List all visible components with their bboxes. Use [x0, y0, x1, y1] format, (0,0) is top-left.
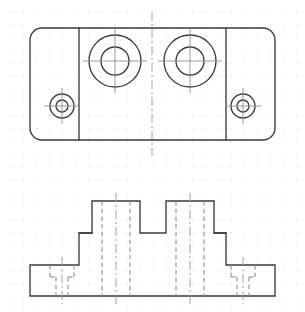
- drawing-svg: [0, 0, 305, 312]
- front-view-group: [30, 193, 275, 304]
- technical-drawing-canvas: Orthographic Engineering Drawing - Stepp…: [0, 0, 305, 312]
- top-view-group: [30, 12, 275, 156]
- small-counterbore-right: [225, 88, 261, 124]
- small-counterbore-left: [44, 88, 80, 124]
- front-view-stepped-outline: [30, 201, 275, 296]
- large-counterbore-right: [158, 29, 222, 93]
- large-counterbore-left: [83, 29, 147, 93]
- top-view-outline: [30, 28, 275, 140]
